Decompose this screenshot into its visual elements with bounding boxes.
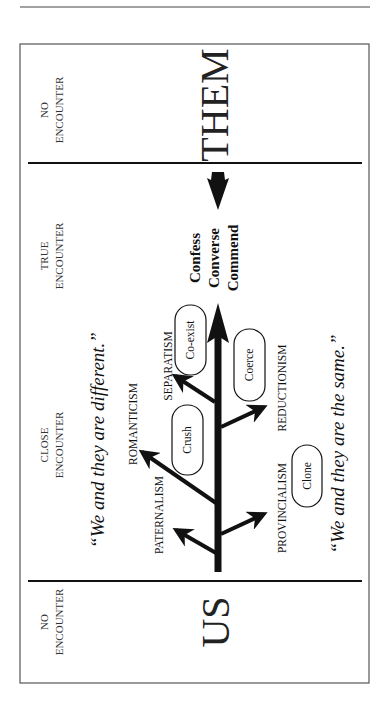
true-encounter-label: TRUE ENCOUNTER [38, 222, 65, 289]
label-provincialism: PROVINCIALISM [276, 463, 288, 553]
quote-different: “We and they are different.” [87, 332, 108, 548]
them-arrow-icon [207, 172, 229, 210]
svg-text:Coerce: Coerce [243, 349, 255, 382]
oval-clone: Clone [292, 445, 322, 507]
label-reductionism: REDUCTIONISM [276, 345, 288, 432]
branch-separatism [175, 376, 215, 402]
svg-text:Converse: Converse [206, 228, 222, 288]
svg-text:Crush: Crush [181, 426, 193, 454]
svg-text:ENCOUNTER: ENCOUNTER [53, 588, 65, 655]
svg-text:CLOSE: CLOSE [38, 427, 50, 462]
oval-coexist: Co-exist [175, 305, 206, 375]
us-zone-label: NO ENCOUNTER [38, 588, 65, 655]
label-romanticism: ROMANTICISM [127, 383, 139, 465]
close-encounter-label: CLOSE ENCOUNTER [38, 411, 65, 478]
svg-text:Co-exist: Co-exist [184, 320, 196, 360]
oval-coerce: Coerce [234, 329, 265, 401]
them-zone-label: NO ENCOUNTER [38, 76, 65, 143]
svg-text:Commend: Commend [225, 224, 241, 291]
svg-text:Confess: Confess [187, 233, 203, 283]
svg-text:NO: NO [38, 614, 50, 630]
quote-same: “We and they are the same.” [327, 334, 348, 553]
them-word: THEM [192, 48, 237, 161]
svg-text:NO: NO [38, 102, 50, 118]
svg-text:ENCOUNTER: ENCOUNTER [53, 411, 65, 478]
svg-text:ENCOUNTER: ENCOUNTER [53, 76, 65, 143]
svg-text:ENCOUNTER: ENCOUNTER [53, 222, 65, 289]
true-encounter-verbs: Confess Converse Commend [187, 224, 241, 291]
oval-crush: Crush [172, 405, 203, 475]
label-paternalism: PATERNALISM [153, 476, 165, 554]
encounter-diagram: NO ENCOUNTER THEM TRUE ENCOUNTER CLOSE E… [0, 0, 388, 715]
branch-provincialism [221, 514, 264, 534]
svg-text:Clone: Clone [301, 462, 313, 489]
branch-paternalism [176, 530, 216, 553]
svg-text:TRUE: TRUE [38, 241, 50, 270]
branch-reductionism [221, 407, 264, 427]
us-word: US [193, 596, 238, 647]
label-separatism: SEPARATISM [162, 331, 174, 400]
